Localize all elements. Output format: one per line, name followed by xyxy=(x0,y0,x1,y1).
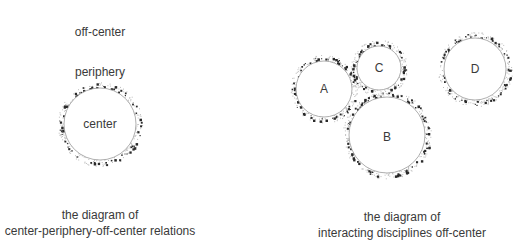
periphery-label: periphery xyxy=(75,65,125,79)
off-center-label: off-center xyxy=(75,25,125,39)
right-caption-line2: interacting disciplines off-center xyxy=(318,225,486,241)
right-caption: the diagram of interacting disciplines o… xyxy=(318,209,486,241)
center-label: center xyxy=(83,117,116,131)
left-caption: the diagram of center-periphery-off-cent… xyxy=(5,207,196,239)
left-caption-line2: center-periphery-off-center relations xyxy=(5,223,196,239)
circle-a-label: A xyxy=(320,82,328,96)
circle-c-label: C xyxy=(375,61,384,75)
interacting-disciplines-diagram xyxy=(291,32,513,179)
circle-b-label: B xyxy=(383,130,391,144)
circle-d-label: D xyxy=(471,62,480,76)
left-caption-line1: the diagram of xyxy=(5,207,196,223)
right-caption-line1: the diagram of xyxy=(318,209,486,225)
